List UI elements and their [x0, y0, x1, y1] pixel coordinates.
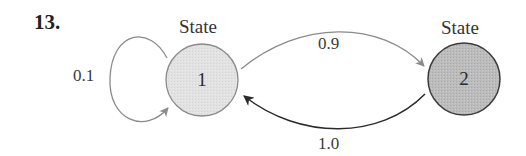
- state-1-label: 1: [187, 69, 217, 91]
- transition-1-to-2-label: 0.9: [318, 34, 339, 54]
- transition-1-to-1-label: 0.1: [73, 66, 94, 86]
- state-2-title: State: [441, 17, 479, 39]
- transition-1-to-1-arrow: [110, 37, 168, 122]
- transition-2-to-1-label: 1.0: [318, 134, 339, 154]
- state-2-label: 2: [449, 68, 479, 90]
- state-1-title: State: [179, 16, 217, 38]
- transition-2-to-1-arrow: [244, 94, 425, 129]
